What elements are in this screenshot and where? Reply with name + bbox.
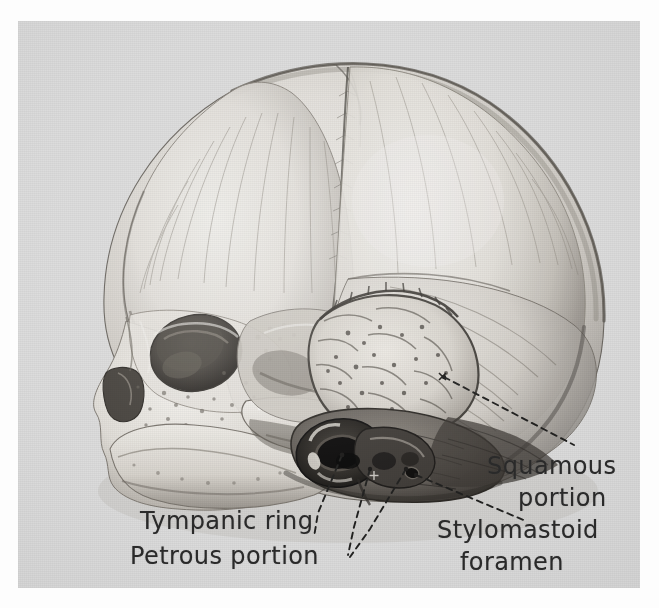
label-squamous-portion-line2: portion bbox=[518, 484, 607, 512]
illustration-plate: Tympanic ring Petrous portion Squamous p… bbox=[18, 21, 640, 588]
label-stylomastoid-foramen-line2: foramen bbox=[460, 548, 564, 576]
label-squamous-portion-line1: Squamous bbox=[487, 452, 616, 480]
figure-root: Tympanic ring Petrous portion Squamous p… bbox=[0, 0, 659, 608]
label-tympanic-ring: Tympanic ring bbox=[140, 507, 313, 535]
label-petrous-portion: Petrous portion bbox=[130, 542, 319, 570]
label-stylomastoid-foramen-line1: Stylomastoid bbox=[437, 516, 599, 544]
